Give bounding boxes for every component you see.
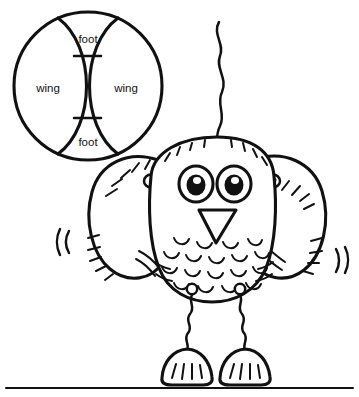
- drawing-canvas: foot wing wing foot: [0, 0, 359, 397]
- left-foot: [162, 349, 212, 385]
- diagram-label-foot-bottom: foot: [78, 136, 98, 148]
- diagram-label-foot-top: foot: [78, 33, 98, 45]
- motion-marks-right: [336, 247, 348, 273]
- left-leg: [186, 295, 192, 350]
- right-foot: [220, 349, 270, 385]
- motion-marks-left: [57, 229, 69, 255]
- antenna-feather-icon: [217, 22, 224, 146]
- left-eye: [179, 166, 213, 202]
- right-eye-highlight: [231, 177, 239, 184]
- right-leg-knob: [235, 284, 245, 294]
- left-leg-knob: [187, 284, 197, 294]
- diagram-label-wing-right: wing: [113, 82, 138, 94]
- diagram-label-wing-left: wing: [35, 82, 60, 94]
- left-eye-highlight: [193, 177, 201, 184]
- parts-circle-diagram: foot wing wing foot: [14, 12, 162, 160]
- right-eye: [217, 166, 251, 202]
- right-leg: [240, 295, 246, 350]
- owl-illustration: foot wing wing foot: [0, 0, 359, 397]
